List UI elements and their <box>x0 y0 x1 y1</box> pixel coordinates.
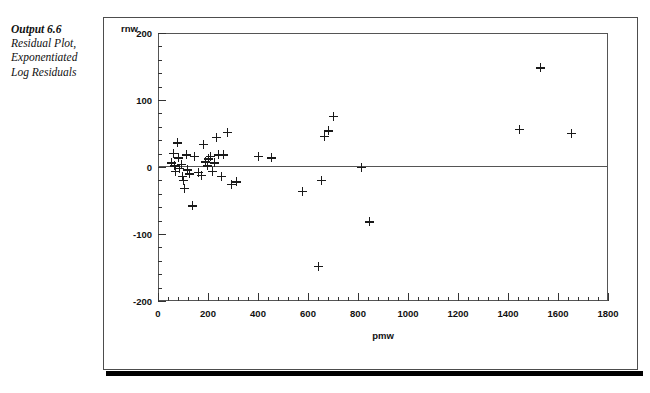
x-axis-minor-tick <box>368 297 369 301</box>
x-axis-minor-tick <box>488 297 489 301</box>
x-axis-minor-tick <box>168 297 169 301</box>
figure-drop-shadow <box>106 371 643 376</box>
y-axis-minor-tick <box>158 194 162 195</box>
x-axis-minor-tick <box>288 297 289 301</box>
x-axis-minor-tick <box>528 297 529 301</box>
y-axis-minor-tick <box>158 140 162 141</box>
y-axis-minor-tick <box>158 154 162 155</box>
x-axis-minor-tick <box>478 297 479 301</box>
x-axis-minor-tick <box>338 297 339 301</box>
x-axis-tick-label: 400 <box>250 308 266 319</box>
x-axis-minor-tick <box>398 297 399 301</box>
x-axis-minor-tick <box>178 297 179 301</box>
x-axis-tick-label: 200 <box>200 308 216 319</box>
y-axis-minor-tick <box>158 221 162 222</box>
y-axis-minor-tick <box>158 247 162 248</box>
x-axis-minor-tick <box>418 297 419 301</box>
y-axis-tick-label: -100 <box>110 229 152 240</box>
y-axis-major-tick <box>158 301 166 302</box>
x-axis-minor-tick <box>548 297 549 301</box>
x-axis-minor-tick <box>438 297 439 301</box>
y-axis-minor-tick <box>158 113 162 114</box>
x-axis-minor-tick <box>198 297 199 301</box>
x-axis-minor-tick <box>278 297 279 301</box>
zero-reference-line <box>158 166 608 167</box>
y-axis-minor-tick <box>158 207 162 208</box>
x-axis-tick-label: 600 <box>300 308 316 319</box>
x-axis-major-tick <box>158 293 159 301</box>
y-axis-tick-label: 0 <box>110 162 152 173</box>
x-axis-major-tick <box>608 293 609 301</box>
x-axis-minor-tick <box>348 297 349 301</box>
x-axis-minor-tick <box>428 297 429 301</box>
x-axis-minor-tick <box>218 297 219 301</box>
x-axis-minor-tick <box>448 297 449 301</box>
y-axis-minor-tick <box>158 60 162 61</box>
y-axis-tick-label: 100 <box>110 95 152 106</box>
y-axis-major-tick <box>158 234 166 235</box>
x-axis-minor-tick <box>518 297 519 301</box>
y-axis-title: rnw <box>121 23 138 34</box>
x-axis-minor-tick <box>228 297 229 301</box>
y-axis-minor-tick <box>158 127 162 128</box>
x-axis-tick-label: 0 <box>155 308 160 319</box>
x-axis-minor-tick <box>268 297 269 301</box>
x-axis-tick-label: 1400 <box>497 308 518 319</box>
y-axis-major-tick <box>158 167 166 168</box>
x-axis-minor-tick <box>498 297 499 301</box>
caption-title: Output 6.6 <box>11 22 103 36</box>
x-axis-major-tick <box>358 293 359 301</box>
y-axis-minor-tick <box>158 46 162 47</box>
figure-caption: Output 6.6 Residual Plot, Exponentiated … <box>11 22 103 79</box>
y-axis-minor-tick <box>158 288 162 289</box>
x-axis-tick-label: 1000 <box>397 308 418 319</box>
figure-container: Output 6.6 Residual Plot, Exponentiated … <box>0 0 650 393</box>
y-axis-tick-label: -200 <box>110 296 152 307</box>
caption-line-1: Residual Plot, <box>11 36 103 50</box>
x-axis-major-tick <box>458 293 459 301</box>
x-axis-minor-tick <box>538 297 539 301</box>
caption-line-3: Log Residuals <box>11 65 103 79</box>
x-axis-tick-label: 1800 <box>597 308 618 319</box>
y-axis-minor-tick <box>158 261 162 262</box>
x-axis-minor-tick <box>468 297 469 301</box>
x-axis-major-tick <box>508 293 509 301</box>
x-axis-tick-label: 1200 <box>447 308 468 319</box>
x-axis-major-tick <box>208 293 209 301</box>
x-axis-minor-tick <box>298 297 299 301</box>
x-axis-minor-tick <box>328 297 329 301</box>
x-axis-minor-tick <box>188 297 189 301</box>
x-axis-minor-tick <box>388 297 389 301</box>
x-axis-major-tick <box>308 293 309 301</box>
x-axis-major-tick <box>558 293 559 301</box>
x-axis-minor-tick <box>318 297 319 301</box>
y-axis-major-tick <box>158 100 166 101</box>
caption-line-2: Exponentiated <box>11 50 103 64</box>
y-axis-minor-tick <box>158 180 162 181</box>
x-axis-minor-tick <box>598 297 599 301</box>
x-axis-major-tick <box>408 293 409 301</box>
y-axis-major-tick <box>158 33 166 34</box>
y-axis-minor-tick <box>158 87 162 88</box>
x-axis-tick-label: 800 <box>350 308 366 319</box>
x-axis-minor-tick <box>238 297 239 301</box>
x-axis-minor-tick <box>568 297 569 301</box>
x-axis-major-tick <box>258 293 259 301</box>
x-axis-minor-tick <box>588 297 589 301</box>
x-axis-title: pmw <box>372 330 394 341</box>
y-axis-minor-tick <box>158 73 162 74</box>
x-axis-minor-tick <box>578 297 579 301</box>
x-axis-minor-tick <box>248 297 249 301</box>
y-axis-minor-tick <box>158 274 162 275</box>
plot-area-frame <box>158 33 608 301</box>
x-axis-minor-tick <box>378 297 379 301</box>
x-axis-tick-label: 1600 <box>547 308 568 319</box>
